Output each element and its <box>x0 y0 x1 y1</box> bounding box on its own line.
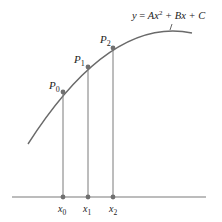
label-p0: P0 <box>48 79 60 94</box>
label-x1: x1 <box>82 203 91 217</box>
equation-label: y = Ax2 + Bx + C <box>131 9 206 21</box>
label-p1: P1 <box>73 53 85 68</box>
point-p0 <box>61 90 66 95</box>
label-x0: x0 <box>57 203 66 217</box>
point-p2 <box>111 46 116 51</box>
point-p1 <box>86 65 91 70</box>
label-p2: P2 <box>99 33 111 48</box>
axis-point-x2 <box>111 195 116 200</box>
axis-point-x0 <box>61 195 66 200</box>
label-x2: x2 <box>108 203 117 217</box>
axis-point-x1 <box>86 195 91 200</box>
equation-leader <box>170 24 172 30</box>
parabola-diagram: P0 P1 P2 x0 x1 x2 y = Ax2 + Bx + C <box>0 0 222 222</box>
